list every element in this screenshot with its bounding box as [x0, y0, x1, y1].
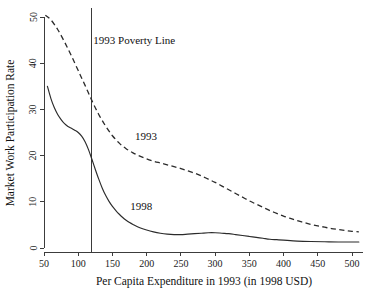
- series-line-1998: [47, 86, 358, 242]
- x-tick-label: 50: [39, 258, 49, 269]
- y-axis-title: Market Work Participation Rate: [4, 60, 17, 207]
- series-label-1993: 1993: [135, 130, 158, 142]
- y-axis: 01020304050: [28, 12, 45, 251]
- x-tick-label: 150: [105, 258, 120, 269]
- y-tick-label: 30: [28, 104, 39, 114]
- x-tick-label: 450: [310, 258, 325, 269]
- x-tick-label: 500: [345, 258, 360, 269]
- y-tick-label: 40: [28, 58, 39, 68]
- y-tick-label: 10: [28, 197, 39, 207]
- x-axis-title: Per Capita Expenditure in 1993 (in 1998 …: [96, 275, 312, 288]
- x-tick-label: 350: [242, 258, 257, 269]
- series-label-1998: 1998: [130, 200, 153, 212]
- poverty-line-label: 1993 Poverty Line: [93, 34, 175, 46]
- y-tick-label: 0: [28, 246, 39, 251]
- x-tick-label: 100: [71, 258, 86, 269]
- line-chart-canvas: 01020304050 5010015020025030035040045050…: [0, 0, 371, 292]
- chart-figure: 01020304050 5010015020025030035040045050…: [0, 0, 371, 292]
- y-tick-label: 50: [28, 12, 39, 22]
- x-tick-label: 200: [139, 258, 154, 269]
- x-axis-ticks: 50100150200250300350400450500: [39, 252, 360, 269]
- x-tick-label: 400: [276, 258, 291, 269]
- x-tick-label: 300: [208, 258, 223, 269]
- y-tick-label: 20: [28, 151, 39, 161]
- y-axis-ticks: 01020304050: [28, 12, 45, 251]
- x-axis: 50100150200250300350400450500: [39, 252, 363, 269]
- x-tick-label: 250: [173, 258, 188, 269]
- chart-annotations: 1993 Poverty Line19931998: [93, 34, 175, 212]
